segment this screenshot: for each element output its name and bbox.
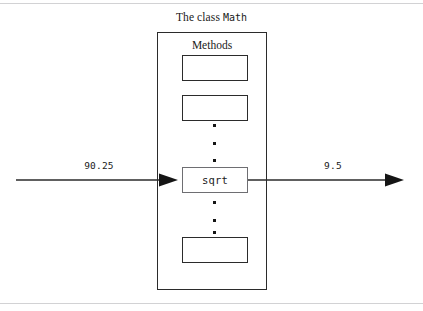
ellipsis-dot-upper-2 — [213, 142, 216, 145]
methods-heading: Methods — [157, 38, 267, 52]
method-label-sqrt: sqrt — [202, 174, 228, 186]
output-arrowhead-icon — [385, 174, 404, 187]
figure-title-class-name: Math — [223, 12, 247, 23]
method-box-sqrt: sqrt — [182, 167, 248, 193]
ellipsis-dot-lower-2 — [213, 219, 216, 222]
figure-title-prefix: The class — [176, 11, 223, 23]
method-box-2 — [182, 95, 248, 121]
ellipsis-dot-upper-3 — [213, 159, 216, 162]
page-rule-top — [0, 3, 423, 4]
method-box-1 — [182, 55, 248, 81]
class-math-diagram: The class Math Methods sqrt 90.25 9.5 — [0, 0, 423, 311]
ellipsis-dot-lower-1 — [213, 201, 216, 204]
ellipsis-dot-lower-3 — [213, 231, 216, 234]
input-value-label: 90.25 — [44, 160, 154, 172]
ellipsis-dot-upper-1 — [213, 124, 216, 127]
page-rule-bottom — [0, 303, 423, 304]
method-box-last — [182, 237, 248, 263]
figure-title: The class Math — [0, 10, 423, 25]
output-value-label: 9.5 — [278, 160, 388, 172]
